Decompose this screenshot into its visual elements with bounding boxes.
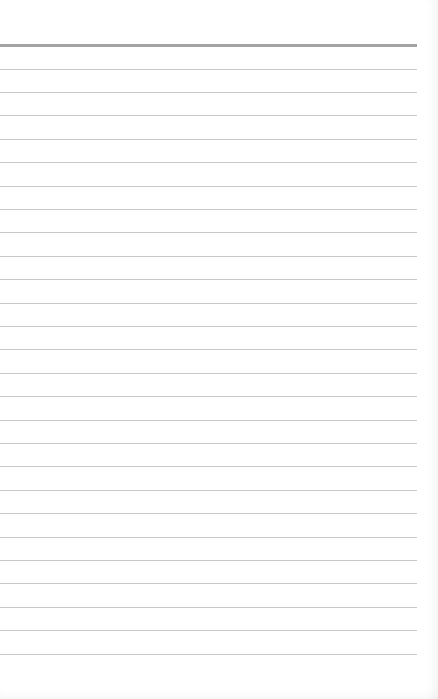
ruled-line — [0, 186, 417, 187]
ruled-lines — [0, 0, 438, 699]
ruled-line — [0, 537, 417, 538]
ruled-line — [0, 326, 417, 327]
ruled-line — [0, 256, 417, 257]
ruled-line — [0, 490, 417, 491]
ruled-line — [0, 420, 417, 421]
ruled-line — [0, 583, 417, 584]
ruled-line — [0, 232, 417, 233]
ruled-line — [0, 303, 417, 304]
ruled-line — [0, 443, 417, 444]
ruled-line — [0, 396, 417, 397]
ruled-line — [0, 349, 417, 350]
ruled-line — [0, 92, 417, 93]
ruled-line — [0, 630, 417, 631]
ruled-line — [0, 139, 417, 140]
ruled-line — [0, 466, 417, 467]
ruled-line — [0, 654, 417, 655]
ruled-line — [0, 69, 417, 70]
ruled-line — [0, 209, 417, 210]
ruled-line — [0, 607, 417, 608]
ruled-line — [0, 373, 417, 374]
ruled-line — [0, 162, 417, 163]
ruled-line — [0, 279, 417, 280]
ruled-line — [0, 115, 417, 116]
ruled-line — [0, 560, 417, 561]
ruled-line — [0, 513, 417, 514]
lined-paper-page — [0, 0, 438, 699]
